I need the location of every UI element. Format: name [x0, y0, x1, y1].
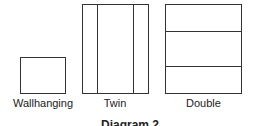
wallhanging-label: Wallhanging [5, 97, 81, 109]
wallhanging-rectangle [20, 57, 66, 94]
double-divider-bottom [166, 66, 241, 67]
twin-label: Twin [90, 97, 140, 109]
double-rectangle [165, 4, 242, 94]
twin-divider-left [97, 5, 98, 93]
double-divider-top [166, 31, 241, 32]
twin-rectangle [82, 4, 149, 94]
double-label: Double [170, 97, 237, 109]
twin-divider-right [133, 5, 134, 93]
diagram-caption: Diagram 2 [80, 118, 180, 126]
